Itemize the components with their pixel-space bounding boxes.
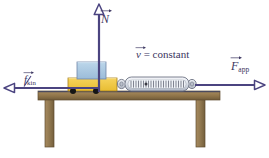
constant-velocity-label: v = constant <box>136 49 189 60</box>
velocity-equals-constant: = constant <box>141 48 189 60</box>
scale-left-ring <box>117 79 125 88</box>
scale-pointer <box>145 83 148 86</box>
applied-force-symbol: F <box>231 59 238 73</box>
kinetic-friction-label: f kin <box>24 74 36 86</box>
normal-force-symbol: N <box>101 12 109 26</box>
physics-diagram-canvas: N f kin F app v <box>0 0 269 158</box>
velocity-symbol: v <box>136 48 141 60</box>
kinetic-friction-subscript: kin <box>27 79 36 86</box>
scale-window <box>128 80 186 89</box>
normal-force-label: N <box>101 13 109 25</box>
kinetic-friction-symbol: f <box>24 73 27 85</box>
applied-force-vector <box>195 80 265 89</box>
blue-block <box>77 62 106 79</box>
diagram-svg <box>0 0 269 158</box>
table-top <box>38 91 220 100</box>
table-leg-left <box>45 99 54 147</box>
table-leg-right <box>196 99 205 147</box>
applied-force-subscript: app <box>238 65 249 74</box>
applied-force-label: F app <box>231 60 249 73</box>
spring-scale <box>117 77 196 91</box>
wooden-table <box>38 91 220 147</box>
